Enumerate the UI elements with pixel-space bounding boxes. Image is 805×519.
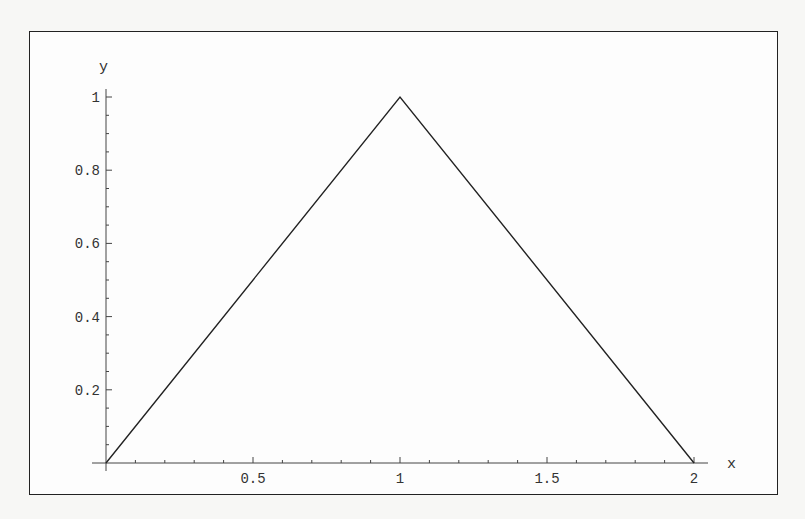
- chart-svg: 0.511.520.20.40.60.81xy: [0, 0, 805, 519]
- x-axis-label: x: [727, 456, 736, 473]
- x-tick-label: 1.5: [534, 471, 559, 487]
- x-tick-label: 0.5: [240, 471, 265, 487]
- series: [106, 97, 694, 463]
- series-line: [106, 97, 694, 463]
- y-tick-label: 0.8: [75, 163, 100, 179]
- y-tick-label: 0.4: [75, 310, 100, 326]
- y-axis-label: y: [99, 59, 108, 76]
- y-tick-label: 0.2: [75, 383, 100, 399]
- x-tick-label: 2: [690, 471, 698, 487]
- ticks: [106, 97, 694, 463]
- y-tick-label: 1: [92, 90, 100, 106]
- y-tick-label: 0.6: [75, 236, 100, 252]
- axes: [92, 89, 708, 471]
- labels: 0.511.520.20.40.60.81xy: [75, 59, 736, 487]
- x-tick-label: 1: [396, 471, 404, 487]
